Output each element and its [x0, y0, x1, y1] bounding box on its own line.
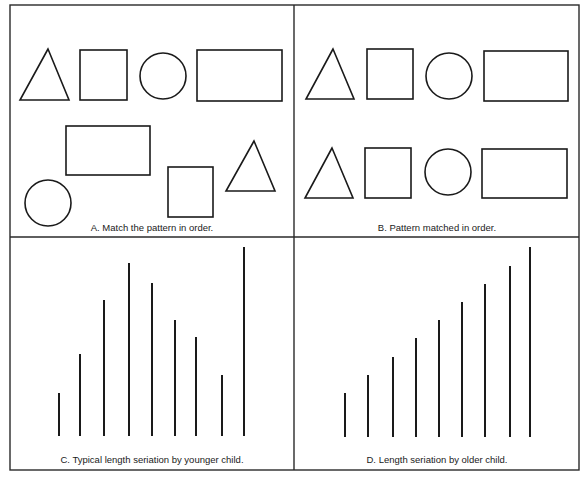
panel-c-younger-child-seriation	[59, 247, 244, 436]
panel-a-match-pattern	[20, 49, 282, 226]
circle-shape	[425, 149, 471, 195]
triangle-shape	[305, 148, 353, 198]
triangle-shape	[306, 49, 354, 99]
circle-shape	[426, 53, 472, 99]
square-shape	[367, 49, 413, 99]
square-shape	[168, 167, 213, 217]
circle-shape	[25, 180, 71, 226]
rectangle-shape	[484, 51, 568, 101]
rectangle-shape	[482, 149, 567, 198]
square-shape	[365, 148, 411, 198]
panel-d-older-child-seriation	[345, 247, 530, 437]
rectangle-shape	[197, 50, 282, 101]
circle-shape	[140, 53, 186, 99]
square-shape	[80, 50, 127, 100]
caption-d: D. Length seriation by older child.	[367, 454, 508, 465]
rectangle-shape	[66, 126, 150, 175]
triangle-shape	[20, 49, 69, 100]
caption-b: B. Pattern matched in order.	[378, 222, 496, 233]
seriation-figure: A. Match the pattern in order. B. Patter…	[0, 0, 586, 477]
triangle-shape	[226, 141, 275, 191]
panel-b-pattern-matched	[305, 49, 568, 198]
caption-a: A. Match the pattern in order.	[91, 222, 214, 233]
caption-c: C. Typical length seriation by younger c…	[60, 454, 243, 465]
